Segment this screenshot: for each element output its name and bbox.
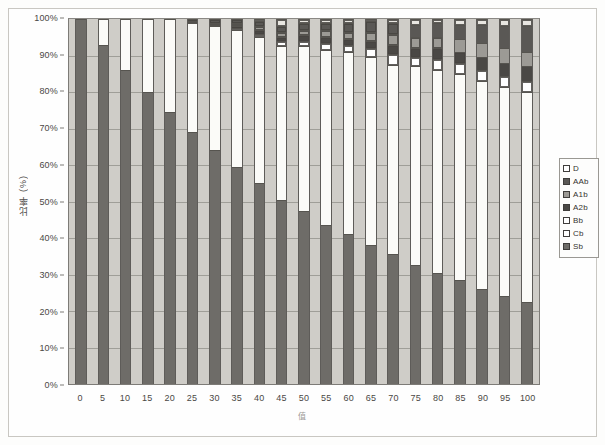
legend-label: AAb xyxy=(573,178,589,186)
stacked-bar[interactable] xyxy=(120,19,132,384)
bar-segment-Sb xyxy=(411,265,421,384)
bar-segment-D xyxy=(522,19,532,26)
legend-item-Cb[interactable]: Cb xyxy=(563,227,595,240)
bar-segment-Cb xyxy=(255,37,265,183)
x-axis-tick-85: 85 xyxy=(449,387,471,405)
bar-slot xyxy=(137,19,159,384)
stacked-bar[interactable] xyxy=(454,19,466,384)
bar-segment-A2b xyxy=(477,57,487,70)
stacked-bar[interactable] xyxy=(387,19,399,384)
bar-segment-Sb xyxy=(477,289,487,384)
legend-swatch-icon xyxy=(563,243,570,250)
bar-segment-A1b xyxy=(321,30,331,37)
bar-segment-Cb xyxy=(411,66,421,265)
stacked-bar[interactable] xyxy=(254,19,266,384)
legend-swatch-icon xyxy=(563,217,570,224)
bar-segment-Cb xyxy=(522,92,532,302)
y-axis-tick-90: 90% xyxy=(39,50,58,60)
legend-label: Cb xyxy=(573,230,584,238)
stacked-bar[interactable] xyxy=(521,19,533,384)
stacked-bar[interactable] xyxy=(231,19,243,384)
y-axis-tick-mark xyxy=(60,348,64,349)
bar-slot xyxy=(404,19,426,384)
x-axis-tick-15: 15 xyxy=(136,387,158,405)
bar-segment-AAb xyxy=(321,23,331,30)
bar-slot xyxy=(493,19,515,384)
bar-slot xyxy=(92,19,114,384)
stacked-bar[interactable] xyxy=(476,19,488,384)
bar-slot xyxy=(315,19,337,384)
bar-slot xyxy=(115,19,137,384)
stacked-bar[interactable] xyxy=(209,19,221,384)
bar-segment-Cb xyxy=(99,19,109,45)
stacked-bar[interactable] xyxy=(298,19,310,384)
stacked-bar[interactable] xyxy=(499,19,511,384)
bar-slot xyxy=(382,19,404,384)
y-axis-tick-mark xyxy=(60,91,64,92)
stacked-bars xyxy=(69,19,539,384)
y-axis-tick-mark xyxy=(60,201,64,202)
legend-item-Bb[interactable]: Bb xyxy=(563,214,595,227)
bar-segment-Sb xyxy=(232,167,242,384)
bar-segment-Bb xyxy=(366,48,376,57)
y-axis-tick-mark xyxy=(60,238,64,239)
x-axis-tick-60: 60 xyxy=(338,387,360,405)
bar-segment-A1b xyxy=(344,32,354,39)
bar-segment-Cb xyxy=(500,87,510,297)
bar-segment-AAb xyxy=(433,23,443,38)
bar-segment-AAb xyxy=(366,21,376,32)
bar-segment-Bb xyxy=(388,54,398,65)
bar-segment-Sb xyxy=(143,92,153,384)
x-axis-tick-75: 75 xyxy=(405,387,427,405)
bar-segment-AAb xyxy=(299,23,309,30)
x-axis-tick-0: 0 xyxy=(69,387,91,405)
legend-item-A2b[interactable]: A2b xyxy=(563,201,595,214)
stacked-bar[interactable] xyxy=(98,19,110,384)
legend-swatch-icon xyxy=(563,191,570,198)
x-axis-tick-labels: 0510152025303540455055606570758085909510… xyxy=(68,387,540,405)
x-axis-tick-30: 30 xyxy=(203,387,225,405)
stacked-bar[interactable] xyxy=(365,19,377,384)
stacked-bar[interactable] xyxy=(164,19,176,384)
bar-slot xyxy=(271,19,293,384)
bar-segment-Cb xyxy=(433,70,443,273)
stacked-bar[interactable] xyxy=(343,19,355,384)
stacked-bar[interactable] xyxy=(320,19,332,384)
y-axis-tick-10: 10% xyxy=(39,343,58,353)
y-axis-tick-30: 30% xyxy=(39,270,58,280)
stacked-bar[interactable] xyxy=(75,19,87,384)
bar-segment-Sb xyxy=(500,296,510,384)
x-axis-tick-70: 70 xyxy=(382,387,404,405)
bar-segment-Cb xyxy=(210,26,220,150)
bar-segment-Cb xyxy=(232,30,242,167)
legend-item-A1b[interactable]: A1b xyxy=(563,188,595,201)
stacked-bar[interactable] xyxy=(432,19,444,384)
bar-segment-Cb xyxy=(477,81,487,289)
bar-slot xyxy=(360,19,382,384)
bar-segment-AAb xyxy=(477,25,487,43)
stacked-bar[interactable] xyxy=(276,19,288,384)
legend-item-D[interactable]: D xyxy=(563,162,595,175)
stacked-bar[interactable] xyxy=(410,19,422,384)
bar-segment-A2b xyxy=(455,52,465,63)
x-axis-tick-10: 10 xyxy=(114,387,136,405)
bar-segment-AAb xyxy=(522,26,532,52)
bar-segment-Cb xyxy=(455,74,465,280)
y-axis-tick-80: 80% xyxy=(39,86,58,96)
x-axis-tick-35: 35 xyxy=(226,387,248,405)
x-axis-tick-100: 100 xyxy=(517,387,539,405)
bar-segment-Sb xyxy=(366,245,376,384)
stacked-bar[interactable] xyxy=(187,19,199,384)
legend-item-AAb[interactable]: AAb xyxy=(563,175,595,188)
bar-segment-Bb xyxy=(433,59,443,70)
x-axis-tick-20: 20 xyxy=(159,387,181,405)
bar-segment-Cb xyxy=(366,57,376,245)
y-axis-tick-mark xyxy=(60,18,64,19)
legend-label: A2b xyxy=(573,204,588,212)
bar-segment-Sb xyxy=(433,273,443,384)
bar-segment-Cb xyxy=(344,52,354,235)
bar-segment-A1b xyxy=(455,39,465,52)
legend-label: D xyxy=(573,165,579,173)
stacked-bar[interactable] xyxy=(142,19,154,384)
legend-item-Sb[interactable]: Sb xyxy=(563,240,595,253)
